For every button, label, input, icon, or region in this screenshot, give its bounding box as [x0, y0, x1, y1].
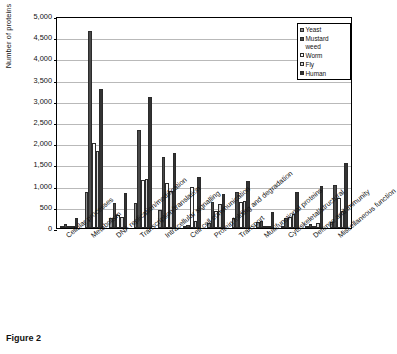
x-axis-tick-labels: Cellular processesMetabolismDNA replicat…	[56, 230, 352, 322]
legend-label: Mustard weed	[306, 35, 329, 50]
legend-item: Fly	[300, 61, 348, 69]
legend-swatch-icon	[300, 53, 304, 57]
legend-swatch-icon	[300, 71, 304, 75]
y-axis-tick-label: 500	[18, 204, 52, 212]
y-axis-tick-labels: 5,0004,5004,0003,5003,0002,5002,0001,500…	[18, 17, 52, 229]
legend-label: Yeast	[306, 26, 322, 34]
y-axis-tick-label: 2,000	[18, 140, 52, 148]
y-axis-tick-label: 5,000	[18, 13, 52, 21]
legend-swatch-icon	[300, 37, 304, 41]
bar	[344, 163, 348, 228]
bar-group	[82, 18, 107, 228]
legend-item: Yeast	[300, 26, 348, 34]
figure-caption: Figure 2	[6, 333, 358, 343]
y-axis-tick-label: 2,500	[18, 119, 52, 127]
legend-label: Human	[306, 70, 327, 78]
bar-group	[57, 18, 82, 228]
legend-label: Fly	[306, 61, 315, 69]
y-axis-tick-label: 1,000	[18, 183, 52, 191]
legend-label: Worm	[306, 52, 323, 60]
y-axis-title: Number of proteins	[4, 0, 13, 96]
legend-swatch-icon	[300, 28, 304, 32]
y-axis-tick-label: 3,000	[18, 98, 52, 106]
legend-item: Human	[300, 70, 348, 78]
bar-group	[131, 18, 156, 228]
y-axis-tick-label: 0	[18, 225, 52, 233]
legend-item: Mustard weed	[300, 35, 348, 50]
legend-swatch-icon	[300, 62, 304, 66]
y-axis-tick-label: 4,000	[18, 55, 52, 63]
y-axis-tick-label: 3,500	[18, 77, 52, 85]
y-axis-tick-label: 4,500	[18, 34, 52, 42]
y-axis-tick-label: 1,500	[18, 161, 52, 169]
figure-caption-label: Figure 2	[6, 333, 41, 343]
chart-legend: YeastMustard weedWormFlyHuman	[297, 23, 351, 80]
legend-item: Worm	[300, 52, 348, 60]
